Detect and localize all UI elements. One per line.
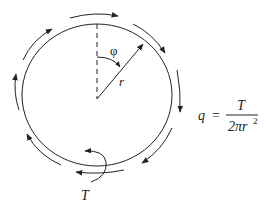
shear-flow-formula: q = T 2πr 2 xyxy=(198,98,258,134)
radius-arrow xyxy=(97,44,143,99)
shear-flow-arrow-upper-right xyxy=(133,24,165,53)
torque-label: T xyxy=(81,188,90,203)
formula-exponent: 2 xyxy=(253,116,258,126)
shear-flow-arrow-left xyxy=(15,74,19,110)
formula-equals: = xyxy=(212,108,220,123)
formula-numerator: T xyxy=(237,98,246,113)
shear-flow-arrow-lower-left xyxy=(27,134,61,165)
formula-lhs: q xyxy=(198,108,205,123)
shear-flow-arrow-upper-left xyxy=(23,29,52,60)
angle-arc xyxy=(97,57,120,67)
formula-denominator: 2πr xyxy=(228,119,248,134)
shear-flow-diagram: φ r T q = T 2πr 2 xyxy=(0,0,266,210)
shear-flow-arrow-right xyxy=(177,70,180,112)
shear-flow-arrow-bottom xyxy=(76,170,124,173)
radius-label: r xyxy=(119,74,125,89)
angle-label: φ xyxy=(110,43,118,58)
shear-flow-arrow-lower-right xyxy=(142,128,172,163)
shear-flow-arrow-top xyxy=(70,14,118,18)
